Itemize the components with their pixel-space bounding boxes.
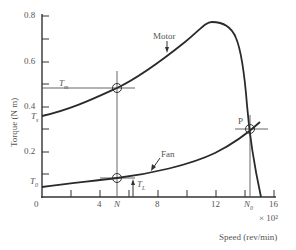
reference-lines (42, 71, 268, 197)
y-tick-label: 0.8 (24, 11, 35, 20)
fan-label: Fan (161, 150, 175, 159)
x-tick-label: 12 (211, 200, 220, 209)
x-tick-label: 4 (97, 200, 102, 209)
motor-curve (42, 22, 261, 197)
y-ticks (42, 16, 49, 174)
x-axis-label: Speed (rev/min) (219, 233, 277, 242)
n0-label: N0 (244, 200, 253, 211)
ts-label: Ts (31, 112, 38, 123)
x-ticks (71, 190, 274, 197)
p-label: P (238, 117, 243, 126)
n-label: N (114, 200, 120, 209)
x-tick-label: 0 (34, 200, 39, 209)
tm-label: Tm (59, 79, 68, 90)
y-tick-label: 0.6 (24, 57, 35, 66)
fan-arrow-icon (151, 158, 160, 171)
y-tick-label: 0.4 (24, 102, 35, 111)
x-tick-label: 8 (155, 200, 160, 209)
chart-canvas (0, 0, 296, 250)
t0-label: T0 (30, 177, 38, 188)
y-tick-label: 0.2 (24, 147, 35, 156)
fan-curve (42, 122, 260, 187)
x-multiplier: × 10² (259, 214, 278, 223)
x-tick-label: 16 (269, 200, 278, 209)
motor-label: Motor (153, 32, 176, 41)
torque-speed-chart: 0.8 0.6 0.4 0.2 Tm Ts T0 TL Motor Fan P … (0, 0, 296, 250)
motor-arrow-icon (165, 41, 169, 53)
tl-label: TL (137, 180, 145, 191)
y-axis-label: Torque (N m) (9, 98, 19, 147)
tl-arrow-icon (131, 179, 135, 197)
